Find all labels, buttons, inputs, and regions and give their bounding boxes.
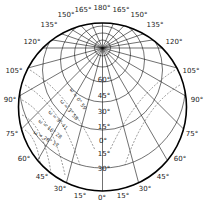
center_scale_labels-label: 15° [98, 151, 110, 158]
outer_labels-label: 120° [24, 39, 41, 46]
outer_labels-label: 45° [157, 174, 169, 181]
stereographic-diagram: 180°165°165°150°150°135°135°120°120°105°… [0, 0, 205, 203]
outer_labels-label: 30° [139, 186, 151, 193]
outer_labels-label: 135° [41, 22, 58, 29]
grid-svg [0, 0, 205, 203]
outer_labels-label: 150° [58, 12, 75, 19]
center_scale_labels-label: 30° [98, 109, 110, 116]
outer_labels-label: 165° [75, 7, 92, 14]
outer_labels-label: 30° [54, 186, 66, 193]
outer_labels-label: 180° [94, 5, 111, 12]
outer_labels-label: 45° [36, 174, 48, 181]
outer_labels-label: 165° [113, 7, 130, 14]
outer_labels-label: 15° [74, 193, 86, 200]
outer_labels-label: 105° [6, 68, 23, 75]
center_scale_labels-label: 30° [98, 166, 110, 173]
outer_labels-label: 120° [166, 39, 183, 46]
outer_labels-label: 75° [186, 131, 198, 138]
outer_labels-label: 90° [4, 97, 16, 104]
outer_labels-label: 0° [98, 195, 106, 202]
outer_labels-label: 60° [174, 156, 186, 163]
outer_labels-label: 105° [183, 68, 200, 75]
center_scale_labels-label: 15° [98, 124, 110, 131]
outer_labels-label: 75° [6, 131, 18, 138]
outer_labels-label: 150° [131, 12, 148, 19]
outer_labels-label: 90° [191, 97, 203, 104]
center_scale_labels-label: 60° [98, 77, 110, 84]
outer_labels-label: 135° [147, 22, 164, 29]
outer_labels-label: 60° [18, 156, 30, 163]
outer_labels-label: 15° [117, 193, 129, 200]
center_scale_labels-label: 0° [99, 138, 107, 145]
center_scale_labels-label: 45° [98, 93, 110, 100]
